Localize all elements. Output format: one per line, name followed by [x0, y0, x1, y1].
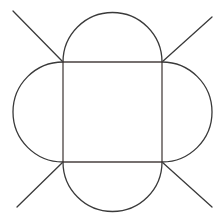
net-diagram-svg: [0, 0, 222, 220]
diagram-background: [0, 0, 222, 220]
geometric-figure-canvas: [0, 0, 222, 220]
